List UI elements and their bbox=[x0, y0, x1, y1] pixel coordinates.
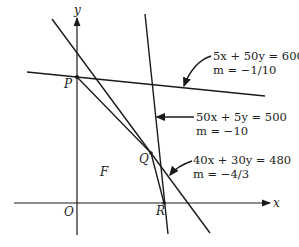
point-P-label: P bbox=[63, 77, 73, 91]
lp-diagram: y x O P Q R F 5x + 50y = 600 m = −1/10 5… bbox=[0, 0, 299, 247]
annotation-arrow-3 bbox=[170, 161, 192, 175]
feasible-boundary bbox=[77, 77, 164, 203]
slope-3: m = −4/3 bbox=[193, 167, 249, 181]
equation-3: 40x + 30y = 480 bbox=[193, 153, 291, 167]
equation-2: 50x + 5y = 500 bbox=[196, 110, 287, 124]
y-axis-label: y bbox=[73, 3, 81, 17]
origin-label: O bbox=[64, 205, 74, 219]
slope-1: m = −1/10 bbox=[213, 63, 276, 77]
point-Q-label: Q bbox=[139, 152, 149, 166]
constraint-line-50x-5y bbox=[145, 14, 168, 234]
equation-1: 5x + 50y = 600 bbox=[213, 49, 299, 63]
annotation-arrow-1 bbox=[184, 56, 211, 86]
vertex-P-dot bbox=[75, 75, 79, 79]
vertex-Q-dot bbox=[149, 151, 153, 155]
x-axis-label: x bbox=[273, 196, 280, 210]
constraint-line-40x-30y bbox=[52, 19, 210, 233]
region-F-label: F bbox=[99, 165, 109, 179]
slope-2: m = −10 bbox=[196, 124, 248, 138]
point-R-label: R bbox=[155, 204, 165, 218]
